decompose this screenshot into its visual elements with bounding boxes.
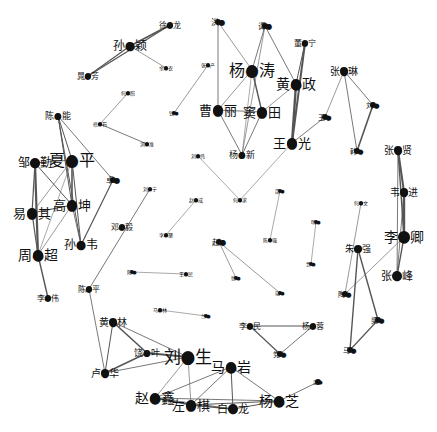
node-zhangchan[interactable]: 张●产 [201, 62, 215, 69]
node-limin[interactable]: 李●民 [239, 321, 262, 331]
node-shengfeng[interactable]: 刘●伟 [191, 153, 205, 160]
node-chenmei[interactable]: 陈●强 [263, 237, 277, 244]
node-luhua[interactable]: 卢●华 [91, 367, 120, 379]
node-jingfang[interactable]: 晁●芳 [77, 71, 100, 81]
node-dot-icon [186, 400, 196, 410]
node-shaoping[interactable]: 邵● [275, 188, 285, 195]
node-dot-icon [119, 224, 125, 230]
node-dot-icon [216, 239, 222, 245]
node-chenneng[interactable]: 陈●能 [45, 110, 71, 121]
node-xulong[interactable]: 徐●龙 [159, 20, 182, 30]
node-dot-icon [144, 350, 150, 356]
node-dot-icon [109, 318, 117, 326]
node-dot-icon [145, 142, 149, 146]
node-dot-icon [215, 19, 221, 25]
node-mazhen[interactable]: 马●林 [153, 307, 167, 314]
node-zhangtai[interactable]: 修●石 [93, 121, 107, 128]
node-liuxusheng[interactable]: 刘●生 [164, 347, 213, 367]
node-zoumin[interactable]: 邹●勤 [18, 156, 52, 170]
node-caoli[interactable]: 曹●丽 [199, 103, 236, 118]
node-lanlan[interactable]: 兰● [201, 313, 211, 319]
node-sunwei[interactable]: 孙●韦 [64, 238, 98, 252]
node-huanglin[interactable]: 黄●林 [99, 316, 128, 328]
node-jinmin[interactable]: 钱● [169, 110, 179, 116]
node-zhaocheng[interactable]: 赵●成 [189, 197, 203, 204]
node-zhaozhuang[interactable]: 赵● [212, 237, 227, 247]
node-ruiyan[interactable]: 瑞● [275, 290, 285, 296]
node-dongning[interactable]: 董●宁 [294, 38, 317, 48]
node-hanhua[interactable]: 韩● [350, 147, 363, 156]
node-dot-icon [228, 404, 238, 414]
node-mayan[interactable]: 马●岩 [211, 359, 251, 375]
node-dot-icon [126, 42, 134, 50]
node-zhouchao[interactable]: 周●超 [18, 247, 58, 263]
node-jiaye[interactable]: 饶●叶 [134, 347, 160, 358]
node-yuanwei[interactable]: 余●衣 [159, 65, 173, 72]
node-hewen[interactable]: 何●文 [354, 200, 368, 207]
node-tengjie[interactable]: 陶● [338, 290, 351, 299]
node-dot-icon [370, 102, 376, 108]
node-heyan[interactable]: 何●求 [233, 197, 247, 203]
node-xuepeng[interactable]: 党● [273, 350, 286, 359]
node-dot-icon [101, 369, 109, 377]
node-tongyuan[interactable]: 谭● [258, 22, 273, 31]
node-yangzhi[interactable]: 杨●芝 [259, 393, 299, 409]
node-xiaping[interactable]: 夏●平 [49, 151, 95, 170]
node-dot-icon [27, 208, 37, 218]
node-wangguang[interactable]: 王●光 [273, 136, 310, 151]
node-xuzhi[interactable]: 徐● [231, 275, 241, 282]
node-dot-icon [400, 188, 408, 196]
node-yangjiatao[interactable]: 杨●涛 [229, 61, 275, 80]
node-dot-icon [262, 23, 268, 29]
node-mingxuan[interactable]: 明● [311, 219, 321, 226]
node-sunyingying[interactable]: 孙●颖 [113, 39, 147, 53]
node-wangli[interactable]: 王●民 [179, 271, 193, 278]
edge-shaoping-chenmei [270, 191, 280, 240]
node-liuhao[interactable]: 刘● [366, 101, 379, 110]
node-huangzheng[interactable]: 黄●政 [276, 76, 316, 92]
node-gaoshen[interactable]: 高●坤 [53, 198, 90, 213]
node-zuobing[interactable]: 左●棋 [172, 398, 209, 413]
node-liju[interactable]: 李●聚 [159, 232, 173, 239]
node-dot-icon [310, 323, 316, 329]
node-bailong[interactable]: 白●龙 [217, 402, 249, 416]
node-liqing[interactable]: 李●卿 [384, 229, 424, 245]
node-hongbei[interactable]: 洪● [211, 17, 226, 27]
node-liwei[interactable]: 李●伟 [37, 293, 60, 303]
node-jiaqin[interactable]: 贾● [306, 261, 316, 268]
node-zhangxian[interactable]: 张●贤 [384, 145, 413, 156]
node-dot-icon [394, 146, 402, 154]
node-yangxin[interactable]: 杨●新 [229, 149, 255, 160]
node-yangrong[interactable]: 杨●蓉 [302, 321, 325, 331]
node-weijin[interactable]: 韦●进 [390, 187, 419, 198]
node-liuning[interactable]: 刘●宁 [143, 186, 157, 192]
node-dot-icon [167, 22, 173, 28]
node-mahong[interactable]: 马● [343, 347, 356, 355]
node-hezhao[interactable]: 何●照 [121, 90, 135, 97]
edge-huanglin-luhua [105, 322, 113, 373]
node-zhaolin[interactable]: 陈● [127, 269, 137, 276]
node-yiqi[interactable]: 易●其 [13, 206, 50, 221]
edge-chenneng-sunwei [58, 116, 81, 245]
edge-zhuqiang-liangjie [358, 249, 378, 320]
node-dot-icon [354, 148, 360, 154]
node-dutian[interactable]: 窦●田 [243, 105, 280, 120]
node-zhanglin[interactable]: 张●琳 [330, 66, 359, 77]
node-dot-icon [278, 291, 282, 295]
node-chenping[interactable]: 陈●平 [78, 284, 101, 294]
node-zhuqiang[interactable]: 朱●强 [345, 243, 371, 254]
node-dot-icon [239, 152, 245, 158]
node-dot-icon [238, 198, 242, 202]
node-dot-icon [302, 40, 308, 46]
node-dot-icon [277, 351, 283, 357]
node-dot-icon [30, 158, 40, 168]
node-dot-icon [268, 238, 272, 242]
node-dengyi[interactable]: 邓●毅 [111, 222, 134, 232]
node-youxuan[interactable]: 游● [313, 379, 323, 386]
node-yingjun[interactable]: 卓● [106, 175, 121, 185]
node-shengsheng[interactable]: 浏●准 [140, 141, 154, 148]
node-zhaoxin[interactable]: 赵●鑫 [135, 390, 175, 406]
node-zhangfeng[interactable]: 张●峰 [381, 270, 413, 283]
node-liangjie[interactable]: 梁● [371, 316, 384, 325]
node-wangyu[interactable]: 王● [318, 114, 331, 122]
